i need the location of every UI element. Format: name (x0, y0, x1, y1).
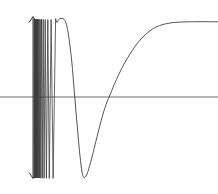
plot-canvas (0, 0, 218, 194)
curve-final-arch-and-asymptote (56, 18, 218, 177)
figure-container (0, 0, 218, 194)
curve-group (34, 18, 218, 178)
curve-oscillating-branch (34, 19, 56, 178)
